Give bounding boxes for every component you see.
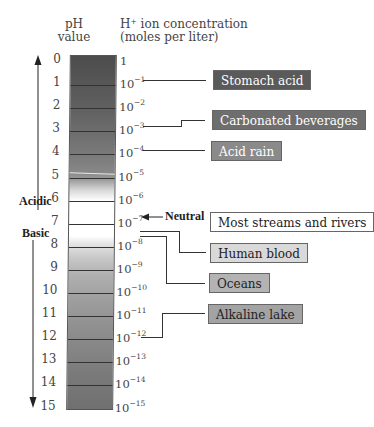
concentration-label: 10−10: [117, 283, 147, 299]
ph-value-label: 0: [39, 52, 61, 66]
ph-tick: [68, 293, 113, 294]
ph-value-label: 2: [38, 98, 60, 112]
concentration-exponent: −13: [130, 352, 146, 361]
connector-blood-b: [179, 231, 180, 252]
connector-stomach-acid: [143, 80, 206, 81]
concentration-label: 10−13: [115, 352, 145, 368]
concentration-base: 10: [116, 331, 131, 345]
concentration-base: 10: [119, 100, 134, 114]
ph-header: pH value: [54, 18, 94, 44]
ph-tick: [68, 316, 113, 317]
ph-value-label: 10: [36, 283, 58, 297]
ph-value-label: 7: [37, 214, 59, 228]
concentration-label: 10−6: [118, 191, 144, 207]
concentration-label: 10−7: [118, 214, 144, 230]
example-human-blood: Human blood: [210, 243, 308, 263]
concentration-label: 10−5: [118, 168, 144, 184]
ph-value-label: 1: [39, 75, 61, 89]
ph-value-label: 6: [37, 191, 59, 205]
ph-tick: [69, 247, 114, 248]
example-carbonated-beverages: Carbonated beverages: [212, 110, 366, 130]
concentration-exponent: −10: [131, 283, 147, 292]
concentration-base: 10: [117, 262, 132, 276]
concentration-label: 10−8: [117, 237, 143, 253]
concentration-exponent: −6: [133, 191, 144, 200]
example-oceans: Oceans: [209, 273, 270, 293]
concentration-base: 10: [118, 193, 133, 207]
connector-carbonated-a: [143, 126, 181, 127]
concentration-label: 10−11: [116, 306, 146, 322]
concentration-base: 10: [115, 377, 130, 391]
concentration-base: 10: [120, 77, 135, 91]
concentration-label: 10−14: [115, 375, 145, 391]
concentration-exponent: −9: [131, 260, 142, 269]
concentration-base: 10: [115, 401, 130, 415]
ph-tick: [67, 385, 112, 386]
concentration-exponent: −5: [133, 168, 144, 177]
connector-carbonated-b: [181, 120, 182, 127]
ph-value-label: 9: [36, 260, 58, 274]
ph-value-label: 11: [35, 306, 57, 320]
connector-oceans-a: [140, 236, 166, 237]
connector-oceans-c: [166, 283, 205, 284]
concentration-base: 10: [118, 170, 133, 184]
concentration-exponent: −4: [133, 144, 144, 153]
concentration-exponent: −2: [134, 98, 145, 107]
neutral-label: Neutral: [165, 209, 204, 224]
acid-rain-highlight: [70, 172, 115, 175]
ph-value-label: 4: [38, 144, 60, 158]
ph-value-label: 15: [34, 399, 56, 413]
connector-alkaline-b: [162, 313, 163, 338]
concentration-exponent: −14: [130, 375, 146, 384]
concentration-exponent: −15: [129, 399, 145, 408]
concentration-header: H⁺ ion concentration (moles per liter): [120, 18, 248, 44]
concentration-exponent: −8: [132, 237, 143, 246]
ph-tick: [69, 201, 114, 202]
example-most-streams-and-rivers: Most streams and rivers: [210, 212, 374, 232]
concentration-header-line2: (moles per liter): [120, 31, 248, 44]
concentration-label: 10−3: [119, 121, 145, 137]
example-acid-rain: Acid rain: [211, 141, 282, 161]
ph-scale-bar: [66, 55, 117, 410]
ph-value-label: 13: [34, 352, 56, 366]
ph-tick: [70, 154, 115, 155]
ph-tick: [69, 224, 114, 225]
ph-tick: [70, 178, 115, 179]
ph-value-label: 3: [38, 121, 60, 135]
concentration-base: 10: [118, 216, 133, 230]
ph-value-label: 5: [37, 168, 59, 182]
neutral-arrow-icon: [141, 212, 163, 222]
connector-carbonated-c: [181, 120, 205, 121]
ph-tick: [71, 85, 116, 86]
connector-alkaline-c: [162, 313, 205, 314]
connector-blood-a: [140, 231, 179, 232]
concentration-label: 10−2: [119, 98, 145, 114]
concentration-base: 10: [116, 308, 131, 322]
concentration-label: 10−15: [115, 399, 145, 415]
ph-tick: [69, 270, 114, 271]
ph-value-label: 12: [35, 329, 57, 343]
example-alkaline-lake: Alkaline lake: [208, 304, 303, 324]
connector-acid-rain: [143, 150, 205, 151]
ph-header-line2: value: [54, 31, 94, 44]
concentration-label: 10−1: [120, 75, 146, 91]
connector-blood-c: [179, 252, 206, 253]
connector-oceans-b: [166, 236, 167, 283]
concentration-base: 10: [117, 285, 132, 299]
concentration-base: 10: [119, 146, 134, 160]
ph-tick: [68, 339, 113, 340]
concentration-base: 10: [117, 239, 132, 253]
concentration-label: 10−4: [119, 144, 145, 160]
ph-tick: [68, 362, 113, 363]
ph-tick: [70, 108, 115, 109]
example-stomach-acid: Stomach acid: [213, 70, 311, 90]
concentration-base: 1: [120, 54, 127, 68]
ph-value-label: 14: [34, 375, 56, 389]
ph-tick: [70, 131, 115, 132]
concentration-label: 10−9: [117, 260, 143, 276]
concentration-exponent: −11: [131, 306, 147, 315]
connector-alkaline-a: [141, 337, 162, 338]
ph-value-label: 8: [36, 237, 58, 251]
concentration-base: 10: [115, 354, 130, 368]
concentration-label: 1: [120, 52, 127, 68]
